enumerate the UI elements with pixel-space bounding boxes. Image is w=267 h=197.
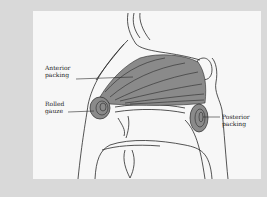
- posterior-packing-icon: [190, 104, 208, 132]
- uvula: [124, 150, 134, 178]
- rolled-gauze-icon: [90, 97, 110, 119]
- label-rolled-gauze: Rolled gauze: [45, 100, 64, 114]
- label-posterior-packing: Posterior packing: [222, 113, 250, 127]
- anterior-packing: [100, 55, 206, 106]
- label-anterior-packing: Anterior packing: [45, 64, 70, 78]
- nasal-packing-illustration: [0, 0, 267, 197]
- nasal-bone-outline: [127, 13, 200, 60]
- rolled-leader-line: [68, 111, 94, 112]
- tongue-outline: [95, 140, 212, 179]
